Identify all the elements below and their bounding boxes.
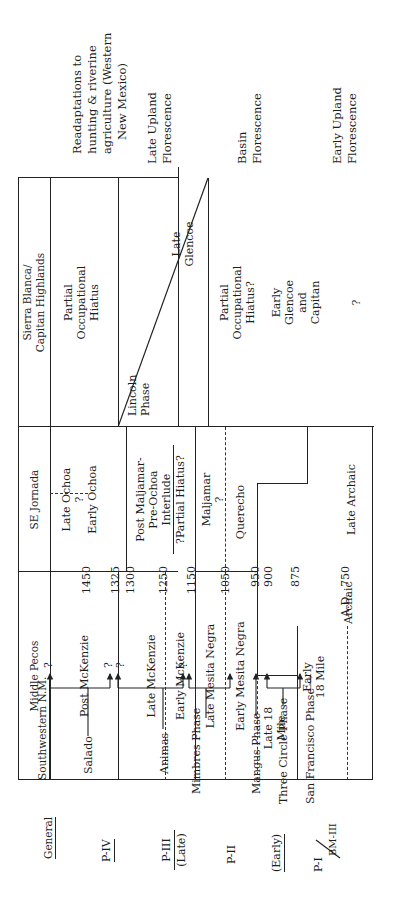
table-top-border xyxy=(18,178,19,780)
cell-late-ochoa-text: Late Ochoa xyxy=(60,427,73,572)
interp-early-upland-line2: Florescence xyxy=(345,87,360,164)
cell-early-glencoe-line3: and xyxy=(296,178,309,427)
cell-lincoln-phase: Lincoln Phase xyxy=(126,375,152,416)
cell-maljamar: Maljamar ? xyxy=(200,427,226,572)
q-animas-top: ? xyxy=(114,662,127,668)
cell-partial-hiatus-1-line3: Hiatus xyxy=(88,178,101,427)
cell-late-18-mile-line2: Mile xyxy=(275,676,288,780)
cell-early-mesita-negra: Early Mesita Negra xyxy=(234,572,247,780)
date-950: 950 xyxy=(249,566,262,587)
cell-early-glencoe-line1: Early xyxy=(270,178,283,427)
cell-partial-hiatus-2: Partial Occupational Hiatus? xyxy=(218,178,257,427)
cell-early-glencoe-line4: Capitan xyxy=(309,178,322,427)
interp-early-upland: Early Upland Florescence xyxy=(330,87,360,164)
interp-basin-line2: Florescence xyxy=(250,93,265,164)
jornada-step-vert xyxy=(257,483,307,484)
cell-late-mckenzie: Late McKenzie xyxy=(145,572,158,780)
cell-partial-hiatus-2-line2: Occupational xyxy=(231,178,244,427)
cell-late-glencoe-line1: Late xyxy=(170,204,183,284)
chronology-table-rotated: General P-IV P-III (Late) P-II (Early) P… xyxy=(0,0,395,914)
interp-readaptations-line1: Readaptations to xyxy=(70,33,85,154)
pecos-dash-950 xyxy=(257,676,258,780)
interp-readaptations: Readaptations to hunting & riverine agri… xyxy=(70,33,130,154)
jornada-step-horiz xyxy=(307,427,308,484)
pecos-dash-1050 xyxy=(225,572,226,780)
cell-post-maljamar-line1: Post Maljamar- xyxy=(134,427,147,572)
header-sierra-blanca-line2: Capitan Highlands xyxy=(34,178,47,427)
table-header-rule xyxy=(50,178,51,780)
cell-early-glencoe: Early Glencoe and Capitan xyxy=(270,178,322,427)
cell-partial-hiatus-1-line1: Partial xyxy=(62,178,75,427)
cell-post-maljamar-line3: Interlude xyxy=(160,427,173,572)
cell-late-18-mile-line1: Late 18 xyxy=(262,676,275,780)
cell-maljamar-question: ? xyxy=(213,427,226,572)
cell-early-ochoa: Early Ochoa xyxy=(86,427,99,572)
cell-querecho: Querecho xyxy=(234,452,247,572)
header-se-jornada: SE Jornada xyxy=(28,427,41,572)
interp-readaptations-line3: agriculture (Western xyxy=(100,33,115,154)
cell-partial-hiatus-1-line2: Occupational xyxy=(75,178,88,427)
interp-readaptations-line2: hunting & riverine xyxy=(85,33,100,154)
header-sierra-blanca-line1: Sierra Blanca/ xyxy=(21,178,34,427)
cell-partial-hiatus-1: Partial Occupational Hiatus xyxy=(62,178,101,427)
header-middle-pecos: Middle Pecos xyxy=(28,572,41,780)
cell-ochoa-question: ? xyxy=(73,427,86,572)
interp-late-upland-line2: Florescence xyxy=(160,92,175,164)
pecos-dash-750 xyxy=(347,626,348,780)
cell-early-glencoe-line2: Glencoe xyxy=(283,178,296,427)
cell-late-ochoa: Late Ochoa ? Early Ochoa xyxy=(60,427,99,572)
cell-partial-hiatus: ?Partial Hiatus? xyxy=(173,445,187,554)
cell-partial-hiatus-2-line1: Partial xyxy=(218,178,231,427)
cell-post-mckenzie: Post McKenzie xyxy=(78,572,91,780)
cell-post-maljamar-line2: Pre-Ochoa xyxy=(147,427,160,572)
interp-late-upland: Late Upland Florescence xyxy=(145,92,175,164)
cell-early-18-mile-line2: 18 Mile xyxy=(314,625,327,729)
cell-maljamar-text: Maljamar xyxy=(200,427,213,572)
interp-readaptations-line4: New Mexico) xyxy=(115,33,130,154)
pecos-archaic-top xyxy=(257,572,258,676)
cell-lincoln-line1: Lincoln xyxy=(126,375,139,416)
cell-late-archaic: Late Archaic xyxy=(345,427,358,572)
table-bottom-border xyxy=(372,426,373,780)
jornada-rule-1300 xyxy=(126,427,127,572)
q-salado-top: ? xyxy=(42,662,55,668)
cell-sierra-question: ? xyxy=(350,178,363,427)
header-sierra-blanca: Sierra Blanca/ Capitan Highlands xyxy=(21,178,47,427)
pecos-dash-1250 xyxy=(165,572,166,780)
cell-archaic: Archaic xyxy=(342,581,355,624)
cell-late-mesita-negra: Late Mesita Negra xyxy=(204,572,217,780)
pecos-rule-1150 xyxy=(195,572,196,780)
pecos-rule-875 xyxy=(297,626,298,780)
cell-early-mckenzie: Early McKenzie xyxy=(174,572,187,780)
cell-early-18-mile-line1: Early xyxy=(301,625,314,729)
cell-partial-hiatus-2-line3: Hiatus? xyxy=(244,178,257,427)
interp-basin-line1: Basin xyxy=(235,93,250,164)
interp-late-upland-line1: Late Upland xyxy=(145,92,160,164)
cell-late-glencoe-line2: Glencoe xyxy=(183,204,196,284)
date-875: 875 xyxy=(289,566,302,587)
cell-post-maljamar: Post Maljamar- Pre-Ochoa Interlude ?Part… xyxy=(134,427,187,572)
cell-early-18-mile: Early 18 Mile xyxy=(301,625,327,729)
pecos-rule-1325 xyxy=(118,572,119,780)
jornada-rule-1150 xyxy=(195,427,196,572)
cell-late-glencoe: Late Glencoe xyxy=(170,204,196,284)
date-900: 900 xyxy=(262,566,275,587)
interp-early-upland-line1: Early Upland xyxy=(330,87,345,164)
jornada-querecho-bottom xyxy=(257,484,258,572)
cell-late-18-mile: Late 18 Mile xyxy=(262,676,288,780)
interp-basin: Basin Florescence xyxy=(235,93,265,164)
cell-lincoln-line2: Phase xyxy=(139,375,152,416)
